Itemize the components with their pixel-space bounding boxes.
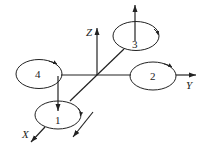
rotor-3: 3 [113, 5, 159, 51]
z-axis-label: Z [86, 26, 93, 38]
rotor-4-label: 4 [35, 68, 41, 80]
rotation-arrow-icon [49, 61, 57, 64]
x-axis-label: X [21, 128, 30, 140]
rotor-3-label: 3 [132, 38, 138, 50]
x-axis-arrow [31, 127, 45, 142]
rotation-arrow-icon [78, 108, 81, 116]
rotor-1-label: 1 [55, 114, 61, 126]
rotor-4: 4 [16, 60, 62, 89]
rotor-2: 2 [130, 62, 176, 90]
y-axis-label: Y [186, 79, 194, 91]
rotation-arrow-icon [164, 64, 172, 67]
motion-direction-arrow [73, 112, 93, 137]
rotor-2-label: 2 [150, 70, 156, 82]
quadrotor-axis-diagram: Z 3 4 2 Y 1 X [0, 0, 206, 154]
